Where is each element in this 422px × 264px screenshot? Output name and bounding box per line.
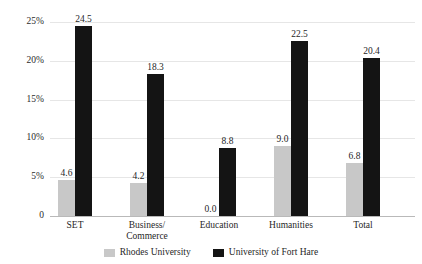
y-axis-tick-label: 25%: [0, 16, 44, 26]
bar-value-label: 4.2: [133, 171, 145, 181]
bar-value-label: 18.3: [147, 62, 164, 72]
bar-value-label: 9.0: [277, 134, 289, 144]
bar[interactable]: 18.3: [147, 74, 164, 216]
y-axis-tick-label: 5%: [0, 171, 44, 181]
bar[interactable]: 20.4: [363, 58, 380, 216]
bar-fill: [219, 148, 236, 216]
bar[interactable]: 4.6: [58, 180, 75, 216]
gridline-0: [50, 216, 415, 217]
bar-value-label: 0.0: [205, 204, 217, 214]
legend-swatch-university-of-fort-hare: [213, 249, 224, 257]
bar[interactable]: 24.5: [75, 26, 92, 216]
bar-value-label: 8.8: [222, 136, 234, 146]
bar[interactable]: 9.0: [274, 146, 291, 216]
bar-fill: [274, 146, 291, 216]
y-axis-tick-label: 20%: [0, 55, 44, 65]
bar-fill: [147, 74, 164, 216]
y-axis-tick-label: 15%: [0, 94, 44, 104]
gridline-25pct: [50, 22, 415, 23]
chart-legend: Rhodes University University of Fort Har…: [0, 247, 422, 258]
y-axis-tick-label: 0: [0, 210, 44, 220]
bar-value-label: 4.6: [61, 168, 73, 178]
bar-value-label: 6.8: [349, 151, 361, 161]
bar[interactable]: 22.5: [291, 41, 308, 216]
legend-label-rhodes-university: Rhodes University: [120, 247, 191, 258]
bar-group: 0.08.8: [202, 46, 236, 216]
bar-chart: 05%10%15%20%25%4.624.5SET4.218.3Business…: [0, 0, 422, 264]
bar-fill: [346, 163, 363, 216]
bar-group: 4.218.3: [130, 46, 164, 216]
plot-area: 05%10%15%20%25%4.624.5SET4.218.3Business…: [0, 0, 422, 264]
legend-swatch-rhodes-university: [104, 249, 115, 257]
legend-item-rhodes-university: Rhodes University: [104, 247, 191, 258]
bar-value-label: 24.5: [75, 14, 92, 24]
bar-fill: [75, 26, 92, 216]
bar-value-label: 22.5: [291, 29, 308, 39]
legend-label-university-of-fort-hare: University of Fort Hare: [229, 247, 318, 258]
bar[interactable]: 6.8: [346, 163, 363, 216]
bar[interactable]: 4.2: [130, 183, 147, 216]
bar[interactable]: 8.8: [219, 148, 236, 216]
bar-value-label: 20.4: [363, 46, 380, 56]
bar-group: 6.820.4: [346, 46, 380, 216]
bar-fill: [363, 58, 380, 216]
x-axis-category-label: Total: [320, 220, 406, 231]
bar-fill: [130, 183, 147, 216]
y-axis-tick-label: 10%: [0, 132, 44, 142]
bar-group: 9.022.5: [274, 46, 308, 216]
bar-fill: [291, 41, 308, 216]
bar[interactable]: 0.0: [202, 215, 219, 216]
bar-fill: [58, 180, 75, 216]
bar-group: 4.624.5: [58, 46, 92, 216]
legend-item-university-of-fort-hare: University of Fort Hare: [213, 247, 318, 258]
